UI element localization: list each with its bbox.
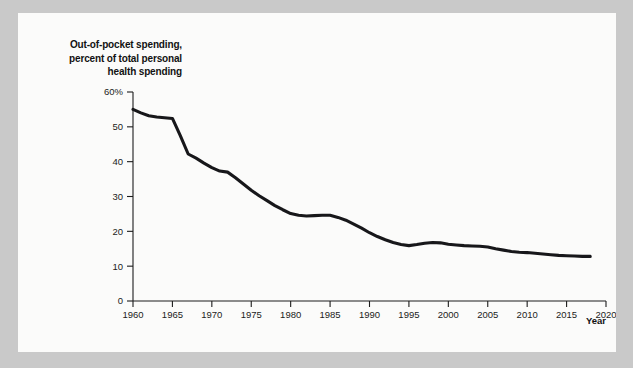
data-series-line xyxy=(133,109,590,256)
x-tick-label: 1980 xyxy=(280,309,301,320)
x-tick-label: 2015 xyxy=(556,309,577,320)
y-tick-label: 10 xyxy=(112,261,123,272)
y-tick-label: 40 xyxy=(112,156,123,167)
x-tick-label: 1960 xyxy=(122,309,143,320)
y-tick-label: 30 xyxy=(112,191,123,202)
y-tick-label: 20 xyxy=(112,226,123,237)
x-tick-label: 1995 xyxy=(398,309,419,320)
x-tick-label: 1970 xyxy=(201,309,222,320)
x-axis-title: Year xyxy=(586,315,606,326)
x-tick-label: 1985 xyxy=(320,309,341,320)
y-tick-label: 0 xyxy=(118,295,123,306)
x-tick-label: 2005 xyxy=(477,309,498,320)
x-tick-label: 1975 xyxy=(241,309,262,320)
y-tick-label: 60% xyxy=(104,86,124,97)
x-tick-group: 1960196519701975198019851990199520002005… xyxy=(122,301,616,320)
x-tick-label: 1965 xyxy=(162,309,183,320)
x-tick-label: 1990 xyxy=(359,309,380,320)
x-tick-label: 2010 xyxy=(517,309,538,320)
x-tick-label: 2000 xyxy=(438,309,459,320)
line-chart: 0102030405060% 1960196519701975198019851… xyxy=(18,13,616,352)
figure-card: Out-of-pocket spending, percent of total… xyxy=(18,13,616,352)
y-tick-label: 50 xyxy=(112,121,123,132)
y-tick-group: 0102030405060% xyxy=(104,86,133,306)
